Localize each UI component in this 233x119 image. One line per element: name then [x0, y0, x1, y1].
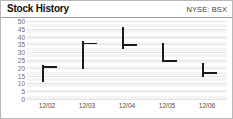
y-axis-tick-label: 10 [18, 80, 25, 87]
ticker-symbol: NYSE: BSX [187, 5, 228, 14]
y-axis-labels: 50454035302520151050 [1, 21, 25, 99]
y-axis-tick-label: 25 [18, 57, 25, 64]
x-axis-tick-label: 12/04 [119, 102, 135, 109]
hlc-close-tick [202, 72, 217, 74]
y-axis-tick-label: 15 [18, 72, 25, 79]
stock-history-widget: Stock History NYSE: BSX 5045403530252015… [0, 0, 233, 119]
hlc-close-tick [82, 43, 97, 45]
chart-plot-area [27, 21, 227, 99]
x-axis-tick-label: 12/06 [199, 102, 215, 109]
y-axis-tick-label: 35 [18, 41, 25, 48]
plot-stripe [27, 33, 227, 36]
gridline [27, 83, 227, 84]
hlc-close-tick [162, 60, 177, 62]
gridline [27, 76, 227, 77]
y-axis-tick-label: 30 [18, 49, 25, 56]
gridline [27, 37, 227, 38]
plot-stripe [27, 69, 227, 72]
y-axis-tick-label: 45 [18, 25, 25, 32]
gridline [27, 29, 227, 30]
plot-stripe [27, 87, 227, 90]
x-axis-tick-label: 12/03 [79, 102, 95, 109]
gridline [27, 21, 227, 22]
hlc-close-tick [122, 44, 137, 46]
y-axis-tick-label: 40 [18, 33, 25, 40]
y-axis-tick-label: 50 [18, 18, 25, 25]
plot-stripe [27, 39, 227, 42]
x-axis-tick-label: 12/02 [39, 102, 55, 109]
page-title: Stock History [7, 3, 69, 14]
hlc-close-tick [42, 66, 57, 68]
hlc-high-low-stem [202, 63, 204, 77]
gridline [27, 68, 227, 69]
plot-stripe [27, 93, 227, 96]
y-axis-tick-label: 5 [21, 88, 25, 95]
gridline [27, 99, 227, 100]
gridline [27, 91, 227, 92]
gridline [27, 52, 227, 53]
hlc-high-low-stem [162, 43, 164, 62]
hlc-high-low-stem [82, 41, 84, 69]
x-axis-tick-label: 12/05 [159, 102, 175, 109]
y-axis-tick-label: 20 [18, 64, 25, 71]
widget-header: Stock History NYSE: BSX [1, 1, 232, 18]
x-axis-labels: 12/0212/0312/0412/0512/06 [27, 102, 227, 114]
gridline [27, 60, 227, 61]
y-axis-tick-label: 0 [21, 96, 25, 103]
